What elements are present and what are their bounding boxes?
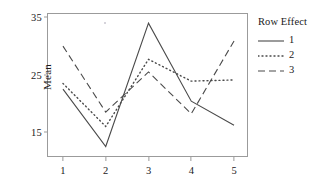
x-tick-mark [148, 156, 149, 161]
y-tick-label: 35 [31, 12, 42, 23]
legend-entries: 123 [258, 33, 314, 78]
x-tick-mark [191, 156, 192, 161]
legend-entry-2[interactable]: 2 [258, 48, 314, 63]
x-tick-mark [62, 156, 63, 161]
x-tick-4: 4 [189, 156, 194, 176]
legend-entry-3[interactable]: 3 [258, 63, 314, 78]
legend-title: Row Effect [258, 16, 314, 27]
legend-label: 1 [289, 35, 294, 46]
x-tick-1: 1 [60, 156, 65, 176]
series-lines [48, 14, 249, 158]
legend-swatch-dotted-icon [258, 51, 284, 61]
plot-area: 152535 Mean 12345 [47, 13, 248, 157]
x-tick-5: 5 [231, 156, 236, 176]
legend: Row Effect 123 [258, 16, 314, 78]
x-tick-label: 5 [231, 165, 236, 176]
legend-label: 2 [289, 50, 294, 61]
series-line-2 [63, 59, 234, 126]
y-tick-mark [44, 132, 48, 133]
x-tick-label: 4 [189, 165, 194, 176]
legend-entry-1[interactable]: 1 [258, 33, 314, 48]
x-tick-label: 3 [146, 165, 151, 176]
x-tick-mark [234, 156, 235, 161]
y-tick-35: 35 [31, 12, 48, 23]
x-tick-3: 3 [146, 156, 151, 176]
y-tick-mark [44, 17, 48, 18]
y-tick-label: 15 [31, 127, 42, 138]
x-tick-label: 1 [60, 165, 65, 176]
x-tick-2: 2 [103, 156, 108, 176]
x-tick-mark [105, 156, 106, 161]
y-axis-label: Mean [41, 47, 53, 107]
chart-figure: 152535 Mean 12345 Row Effect 123 [0, 0, 314, 194]
legend-swatch-dashed-icon [258, 66, 284, 76]
legend-label: 3 [289, 65, 294, 76]
x-tick-label: 2 [103, 165, 108, 176]
scan-artifact-speck [104, 22, 106, 24]
legend-swatch-solid-icon [258, 36, 284, 46]
y-tick-15: 15 [31, 127, 48, 138]
series-line-3 [63, 41, 234, 114]
